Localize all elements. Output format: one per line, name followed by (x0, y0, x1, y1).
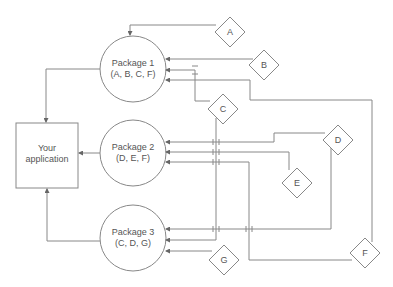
dependency-d-label: D (328, 135, 348, 145)
application-label: Your application (16, 143, 78, 165)
application-label-line2: application (16, 154, 78, 165)
package-1-deps: (A, B, C, F) (100, 69, 166, 80)
package-3-label: Package 3 (C, D, G) (100, 227, 166, 249)
package-2-name: Package 2 (100, 142, 166, 153)
package-1-label: Package 1 (A, B, C, F) (100, 58, 166, 80)
dependency-a-label: A (220, 27, 240, 37)
dependency-f-label: F (355, 248, 375, 258)
dependency-e-label: E (287, 178, 307, 188)
dependency-c-label: C (213, 104, 233, 114)
application-label-line1: Your (16, 143, 78, 154)
dependency-b-label: B (254, 60, 274, 70)
dependency-diagram: Your application Package 1 (A, B, C, F) … (0, 0, 393, 287)
package-3-name: Package 3 (100, 227, 166, 238)
package-2-label: Package 2 (D, E, F) (100, 142, 166, 164)
package-1-name: Package 1 (100, 58, 166, 69)
package-3-deps: (C, D, G) (100, 238, 166, 249)
package-2-deps: (D, E, F) (100, 153, 166, 164)
dependency-g-label: G (214, 255, 234, 265)
